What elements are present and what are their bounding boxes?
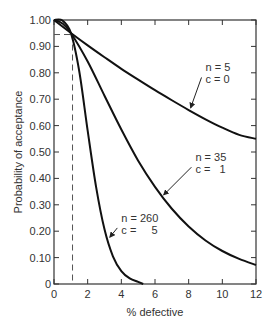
y-tick-label: 1.00 (30, 14, 51, 26)
x-tick-label: 2 (85, 288, 91, 300)
y-tick-label: 0.80 (30, 67, 51, 79)
y-tick-label: 0 (45, 278, 51, 290)
series-label: n = 260 (121, 212, 158, 224)
x-tick-label: 6 (152, 288, 158, 300)
axes: 02468101200.100.200.300.400.500.600.700.… (30, 14, 263, 300)
oc-curve-2 (54, 19, 143, 284)
label-arrow (110, 228, 117, 237)
y-tick-label: 0.90 (30, 40, 51, 52)
y-tick-label: 0.50 (30, 146, 51, 158)
x-tick-label: 0 (51, 288, 57, 300)
y-tick-label: 0.20 (30, 225, 51, 237)
x-tick-label: 4 (118, 288, 124, 300)
y-tick-label: 0.70 (30, 93, 51, 105)
series-label: n = 35 (195, 151, 226, 163)
series-label: c = 0 (206, 73, 230, 85)
y-tick-label: 0.60 (30, 120, 51, 132)
series-label: n = 5 (206, 61, 231, 73)
label-arrow (191, 77, 202, 107)
series-label: c = 1 (195, 163, 225, 175)
y-axis-title: Probability of acceptance (12, 91, 24, 214)
oc-curve-chart: 02468101200.100.200.300.400.500.600.700.… (0, 0, 275, 325)
y-tick-label: 0.10 (30, 252, 51, 264)
series-label: c = 5 (121, 224, 157, 236)
y-tick-label: 0.30 (30, 199, 51, 211)
annotations: n = 5c = 0n = 35c = 1n = 260c = 5 (110, 61, 230, 237)
x-tick-label: 12 (250, 288, 262, 300)
x-tick-label: 8 (186, 288, 192, 300)
dashed-guides (54, 35, 73, 284)
x-tick-label: 10 (216, 288, 228, 300)
x-axis-title: % defective (127, 306, 184, 318)
y-tick-label: 0.40 (30, 172, 51, 184)
label-arrow (164, 167, 192, 195)
